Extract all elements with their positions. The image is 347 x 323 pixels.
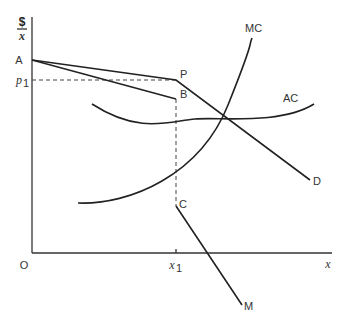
origin-label: O bbox=[20, 259, 29, 271]
p1-subscript: 1 bbox=[23, 77, 29, 89]
point-D-label: D bbox=[313, 175, 321, 187]
x-axis-label: x bbox=[324, 257, 331, 271]
ac-curve-label: AC bbox=[283, 92, 298, 104]
x1-subscript: 1 bbox=[176, 262, 182, 274]
mc-curve bbox=[78, 38, 252, 203]
p1-label: p bbox=[15, 73, 22, 87]
x1-label: x bbox=[168, 258, 175, 272]
y-axis-label-x: x bbox=[18, 29, 25, 43]
point-B-label: B bbox=[180, 88, 187, 100]
point-C-label: C bbox=[179, 198, 187, 210]
marginal-revenue-CM bbox=[176, 206, 242, 305]
economics-diagram: $ x x O x 1 p 1 A P B C D M MC AC bbox=[0, 0, 347, 323]
ac-curve bbox=[92, 104, 314, 124]
point-A-label: A bbox=[15, 54, 23, 66]
point-P-label: P bbox=[180, 68, 187, 80]
mc-curve-label: MC bbox=[245, 22, 262, 34]
point-M-label: M bbox=[244, 300, 253, 312]
demand-curve-APD bbox=[32, 60, 310, 180]
y-axis-label-dollar: $ bbox=[19, 15, 26, 29]
